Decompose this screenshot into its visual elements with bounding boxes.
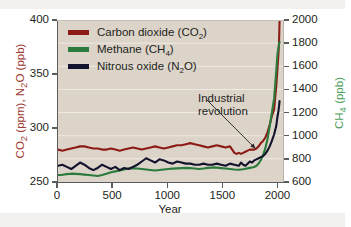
legend-item[interactable]: Methane (CH4)	[68, 41, 207, 58]
y-right-tick-label: 1800	[292, 37, 332, 49]
y-right-tick-mark	[284, 42, 289, 43]
legend-item-label: Nitrous oxide (N2O)	[97, 61, 197, 73]
y-right-tick-label: 1200	[292, 107, 332, 119]
y-right-tick-mark	[284, 135, 289, 136]
y-right-tick-label: 800	[292, 153, 332, 165]
legend: Carbon dioxide (CO2)Methane (CH4)Nitrous…	[68, 24, 207, 75]
legend-item-label: Methane (CH4)	[97, 44, 174, 56]
x-axis-title: Year	[57, 203, 283, 215]
x-tick-mark	[56, 183, 57, 188]
annotation-line-1: Industrial	[198, 92, 248, 105]
y-left-tick-mark	[52, 73, 57, 74]
y-right-tick-mark	[284, 181, 289, 182]
y-left-tick-mark	[52, 127, 57, 128]
y-right-tick-label: 1400	[292, 83, 332, 95]
top-margin-band	[0, 0, 345, 9]
y-right-tick-mark	[284, 19, 289, 20]
legend-swatch-icon	[68, 47, 89, 52]
y-right-tick-mark	[284, 66, 289, 67]
x-tick-mark	[277, 183, 278, 188]
y-axis-left-title: CO2 (ppm), N2O (ppb)	[12, 20, 28, 182]
y-right-tick-label: 2000	[292, 14, 332, 26]
y-right-tick-mark	[284, 158, 289, 159]
legend-item-label: Carbon dioxide (CO2)	[97, 27, 207, 39]
x-tick-mark	[111, 183, 112, 188]
x-tick-label: 2000	[252, 190, 302, 202]
y-right-tick-mark	[284, 112, 289, 113]
legend-item[interactable]: Carbon dioxide (CO2)	[68, 24, 207, 41]
y-right-tick-mark	[284, 89, 289, 90]
annotation-line-2: revolution	[198, 105, 248, 118]
x-tick-label: 1000	[142, 190, 192, 202]
legend-swatch-icon	[68, 64, 89, 69]
x-tick-label: 0	[32, 190, 82, 202]
y-axis-right-title: CH4 (ppb)	[331, 58, 347, 148]
y-right-tick-label: 1600	[292, 60, 332, 72]
x-tick-mark	[222, 183, 223, 188]
y-left-tick-mark	[52, 19, 57, 20]
y-right-tick-label: 600	[292, 176, 332, 188]
top-spine	[57, 20, 284, 21]
annotation-industrial-revolution: Industrial revolution	[198, 92, 248, 118]
legend-item[interactable]: Nitrous oxide (N2O)	[68, 58, 207, 75]
y-right-tick-label: 1000	[292, 130, 332, 142]
bottom-margin-band	[0, 213, 345, 227]
legend-swatch-icon	[68, 30, 89, 35]
x-tick-mark	[167, 183, 168, 188]
x-tick-label: 500	[87, 190, 137, 202]
x-tick-label: 1500	[197, 190, 247, 202]
